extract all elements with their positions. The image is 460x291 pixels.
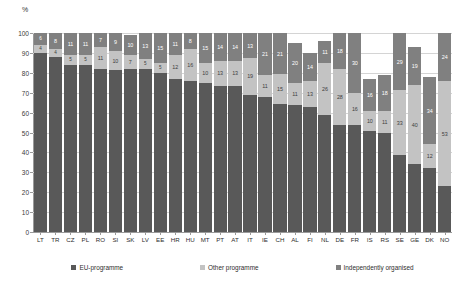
bar-column[interactable]: 109 [109,33,122,232]
bar-segment-eu-programme [139,69,152,232]
bar-segment-other-programme: 28 [333,69,346,125]
bar-segment-independently-organised: 15 [199,33,212,63]
x-axis-tick-mark [295,232,296,235]
bar-column[interactable]: 48 [49,33,62,232]
x-axis-tick-mark [115,232,116,235]
y-axis-tick-label: 40 [5,149,29,156]
bar-column[interactable]: 1234 [423,33,436,232]
x-axis-label-lv: LV [139,236,152,243]
bar-column[interactable]: 1016 [363,33,376,232]
x-axis-label-ch: CH [273,236,286,243]
bar-segment-eu-programme [94,69,107,232]
y-axis-tick-label: 30 [5,169,29,176]
x-axis-label-rs: RS [378,236,391,243]
bar-column[interactable]: 168 [184,33,197,232]
bar-segment-other-programme: 26 [318,63,331,115]
bar-column[interactable]: 5324 [438,33,451,232]
x-axis-tick-mark [355,232,356,235]
x-axis-label-hr: HR [169,236,182,243]
y-axis-tick-label: 90 [5,49,29,56]
bar-column[interactable]: 1521 [273,33,286,232]
x-axis-label-ie: IE [258,236,271,243]
bar-column[interactable]: 511 [64,33,77,232]
legend-item-other[interactable]: Other programme [200,264,258,271]
bar-column[interactable]: 1314 [214,33,227,232]
bar-column[interactable]: 1121 [258,33,271,232]
bar-column[interactable]: 2818 [333,33,346,232]
bar-column[interactable]: 1118 [378,33,391,232]
bar-column[interactable]: 1630 [348,33,361,232]
bar-segment-independently-organised: 21 [258,33,271,75]
bar-segment-independently-organised: 16 [363,79,376,111]
bar-column[interactable]: 2611 [318,33,331,232]
bar-column[interactable]: 511 [79,33,92,232]
x-axis-tick-mark [415,232,416,235]
bar-column[interactable]: 1913 [243,33,256,232]
bar-segment-eu-programme [199,83,212,232]
x-axis-label-ro: RO [94,236,107,243]
bar-segment-independently-organised: 20 [288,43,301,83]
bar-column[interactable]: 710 [124,33,137,232]
y-axis-tick-mark [30,232,33,233]
bar-column[interactable]: 1314 [303,33,316,232]
x-axis-tick-mark [340,232,341,235]
bar-segment-independently-organised: 10 [124,35,137,55]
legend-label-other: Other programme [208,264,258,271]
bar-segment-eu-programme [408,164,421,232]
segment-value-label: 15 [199,45,212,51]
bar-segment-other-programme: 5 [79,55,92,65]
x-axis-tick-mark [145,232,146,235]
bar-series-container: 4648511511117109710513515121116810151314… [33,33,452,232]
bar-column[interactable]: 46 [34,33,47,232]
bar-segment-independently-organised: 13 [243,33,256,58]
x-axis-label-se: SE [393,236,406,243]
x-axis-label-al: AL [288,236,301,243]
x-axis-label-fr: FR [348,236,361,243]
segment-value-label: 18 [333,48,346,54]
bar-segment-eu-programme [273,104,286,232]
bar-column[interactable]: 1314 [228,33,241,232]
bar-segment-other-programme: 40 [408,85,421,165]
segment-value-label: 21 [273,51,286,57]
segment-value-label: 34 [423,108,436,114]
bar-column[interactable]: 4019 [408,33,421,232]
bar-segment-independently-organised: 8 [184,33,197,49]
bar-segment-other-programme: 12 [423,144,436,168]
x-axis-label-hu: HU [184,236,197,243]
bar-column[interactable]: 1120 [288,33,301,232]
bar-segment-other-programme: 5 [154,63,167,73]
segment-value-label: 10 [363,118,376,124]
legend-item-indep[interactable]: Independently organised [336,264,414,271]
bar-segment-independently-organised: 11 [64,33,77,55]
bar-segment-other-programme: 13 [303,81,316,107]
segment-value-label: 18 [378,90,391,96]
bar-column[interactable]: 1211 [169,33,182,232]
bar-column[interactable]: 3329 [393,33,406,232]
bar-segment-independently-organised: 14 [228,33,241,61]
bar-column[interactable]: 117 [94,33,107,232]
segment-value-label: 11 [64,41,77,47]
x-axis-labels: LTTRCZPLROSISKLVEEHRHUMTPTATITIECHALFINL… [33,236,452,243]
segment-value-label: 11 [79,41,92,47]
bar-column[interactable]: 515 [154,33,167,232]
y-axis-tick-label: 60 [5,109,29,116]
x-axis-tick-mark [175,232,176,235]
segment-value-label: 10 [109,58,122,64]
x-axis-label-dk: DK [423,236,436,243]
y-axis-tick-mark [30,133,33,134]
chart-legend: EU-programmeOther programmeIndependently… [33,264,452,271]
segment-value-label: 15 [154,45,167,51]
bar-segment-eu-programme [243,95,256,232]
segment-value-label: 4 [34,46,47,52]
bar-segment-eu-programme [154,73,167,232]
legend-item-eu[interactable]: EU-programme [71,264,123,271]
segment-value-label: 5 [79,57,92,63]
segment-value-label: 8 [184,38,197,44]
bar-column[interactable]: 1015 [199,33,212,232]
bar-column[interactable]: 513 [139,33,152,232]
x-axis-tick-mark [430,232,431,235]
bar-segment-independently-organised: 6 [34,33,47,45]
bar-segment-other-programme: 4 [34,45,47,53]
x-axis-label-at: AT [228,236,241,243]
bar-segment-other-programme: 11 [94,47,107,69]
